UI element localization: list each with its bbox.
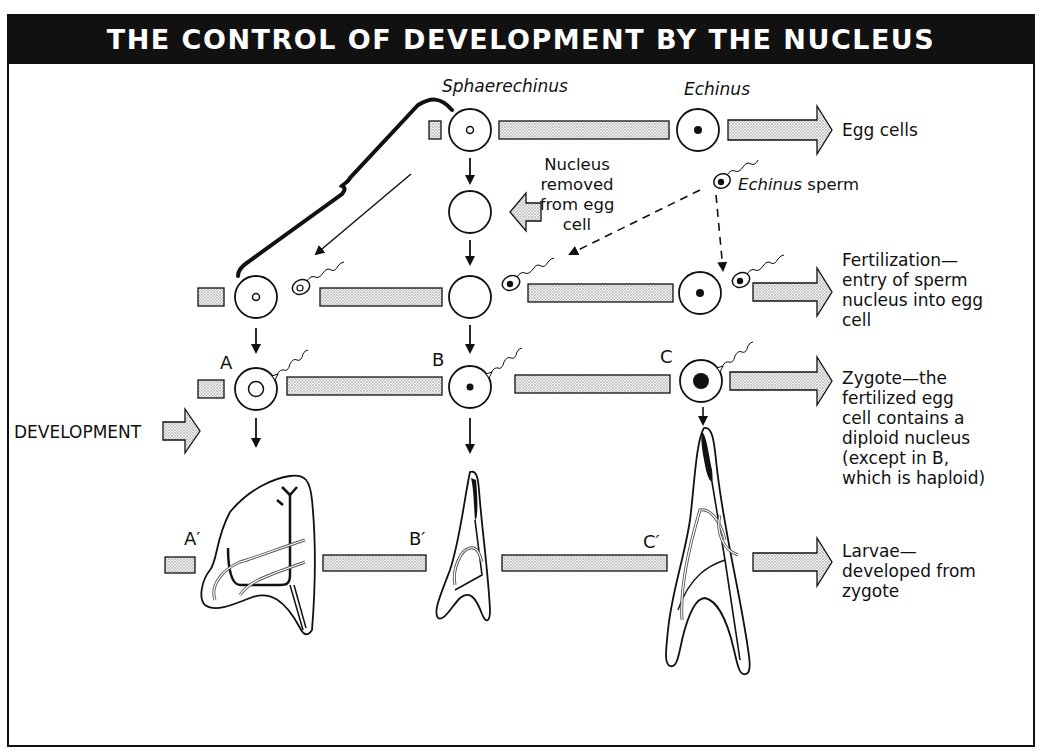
zygote-label-a: A bbox=[220, 352, 232, 373]
egg-cells-row bbox=[429, 106, 832, 154]
larva-a-prime-icon bbox=[201, 476, 315, 635]
transfer-arrow-icon bbox=[316, 174, 411, 254]
zygote-row bbox=[198, 342, 832, 410]
larva-label-a-prime: A′ bbox=[184, 528, 200, 549]
egg-c-icon bbox=[679, 272, 721, 314]
egg-a-icon bbox=[235, 276, 277, 318]
zygote-label-c: C bbox=[660, 346, 673, 367]
stub-bar bbox=[429, 121, 441, 139]
fertilization-arrow-icon bbox=[753, 268, 832, 316]
development-arrow-icon bbox=[163, 409, 200, 453]
larvae-label: Larvae— developed from zygote bbox=[842, 541, 976, 601]
echinus-sperm-label: Echinus sperm bbox=[738, 175, 859, 195]
larva-label-b-prime: B′ bbox=[409, 528, 425, 549]
larva-c-prime-icon bbox=[666, 428, 750, 674]
larva-b-prime-icon bbox=[436, 472, 490, 621]
bracket-icon bbox=[238, 100, 452, 276]
nucleus-removed-annotation: Nucleus removed from egg cell bbox=[527, 155, 627, 235]
egg-cells-arrow-icon bbox=[728, 106, 832, 154]
enucleated-egg-icon bbox=[449, 191, 491, 233]
egg-cells-label: Egg cells bbox=[842, 120, 918, 140]
development-label: DEVELOPMENT bbox=[14, 422, 141, 442]
stippled-bar bbox=[499, 121, 669, 139]
larva-label-c-prime: C′ bbox=[643, 531, 660, 552]
egg-b-icon bbox=[449, 276, 491, 318]
echinus-egg-cell-icon bbox=[677, 109, 719, 151]
sphaerechinus-egg-cell-icon bbox=[449, 109, 491, 151]
zygote-arrow-icon bbox=[730, 357, 832, 405]
fertilization-row bbox=[198, 255, 832, 318]
dashed-arrow-icon bbox=[716, 195, 723, 270]
sphaerechinus-label: Sphaerechinus bbox=[442, 76, 568, 96]
zygote-label: Zygote—the fertilized egg cell contains … bbox=[842, 368, 985, 488]
larvae-arrow-icon bbox=[753, 538, 832, 586]
echinus-label: Echinus bbox=[684, 79, 750, 99]
zygote-label-b: B bbox=[432, 349, 444, 370]
fertilization-label: Fertilization— entry of sperm nucleus in… bbox=[842, 250, 983, 330]
larvae-row bbox=[165, 428, 832, 674]
zygote-b-icon bbox=[449, 348, 522, 408]
